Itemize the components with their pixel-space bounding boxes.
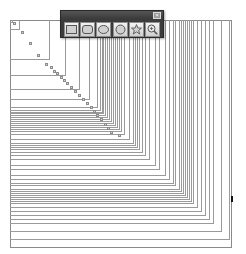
diagonal-marker <box>37 54 40 57</box>
tool-row <box>64 21 160 37</box>
ellipse-icon <box>98 25 109 34</box>
diagonal-marker <box>86 102 89 105</box>
diagonal-marker <box>110 131 113 134</box>
diagonal-marker <box>90 106 93 109</box>
diagonal-marker <box>21 31 24 34</box>
circle-tool[interactable] <box>113 22 128 37</box>
star-icon <box>131 24 142 35</box>
diagonal-marker <box>56 72 59 75</box>
diagonal-marker <box>50 66 53 69</box>
diagonal-marker <box>104 123 107 126</box>
diagonal-marker <box>93 110 96 113</box>
toolbar-title-bar[interactable] <box>61 11 163 19</box>
diagonal-marker <box>78 94 81 97</box>
rounded-rectangle-tool[interactable] <box>80 22 95 37</box>
rectangle-tool[interactable] <box>64 22 79 37</box>
diagonal-marker <box>118 134 121 137</box>
ellipse-tool[interactable] <box>96 22 111 37</box>
diagonal-marker <box>45 63 48 66</box>
circle-icon <box>115 24 126 35</box>
diagonal-marker <box>29 42 32 45</box>
shape-toolbar[interactable]: × <box>60 10 164 38</box>
diagonal-marker <box>66 82 69 85</box>
diagonal-marker <box>107 127 110 130</box>
canvas-frame <box>10 20 232 248</box>
zoom-tool[interactable] <box>145 22 160 37</box>
zoom-icon <box>147 24 158 35</box>
rounded-rectangle-icon <box>82 25 93 34</box>
rectangle-icon <box>66 25 77 34</box>
diagonal-marker <box>82 98 85 101</box>
drawing-canvas[interactable] <box>0 0 246 254</box>
star-tool[interactable] <box>129 22 144 37</box>
diagonal-marker <box>70 86 73 89</box>
diagonal-marker <box>13 22 16 25</box>
close-button[interactable]: × <box>153 12 161 19</box>
diagonal-marker <box>96 114 99 117</box>
diagonal-marker <box>74 90 77 93</box>
edge-marker <box>231 196 233 202</box>
diagonal-marker <box>100 118 103 121</box>
